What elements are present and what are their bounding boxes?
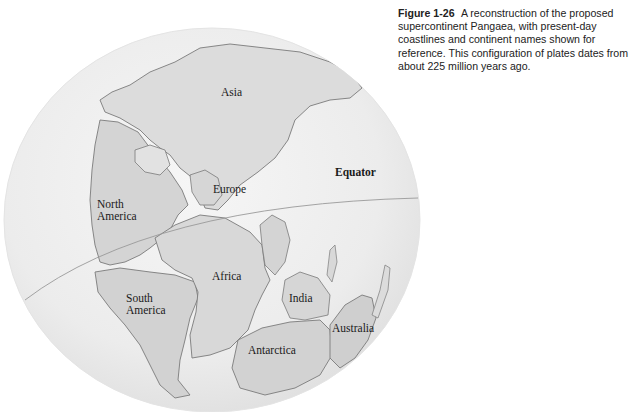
label-equator: Equator (335, 166, 376, 178)
label-antarctica: Antarctica (248, 344, 296, 356)
pangaea-figure: Asia Europe North America Africa South A… (0, 0, 633, 412)
label-north-america-line2: America (97, 210, 137, 222)
label-south-america-line1: South (126, 292, 153, 304)
label-africa: Africa (212, 270, 241, 282)
label-australia: Australia (332, 322, 374, 334)
figure-caption: Figure 1-26 A reconstruction of the prop… (398, 7, 633, 73)
label-asia: Asia (221, 86, 242, 98)
label-north-america-line1: North (97, 198, 124, 210)
label-south-america-line2: America (126, 304, 166, 316)
label-europe: Europe (213, 183, 246, 195)
figure-number: Figure 1-26 (398, 7, 455, 19)
label-india: India (289, 292, 313, 304)
